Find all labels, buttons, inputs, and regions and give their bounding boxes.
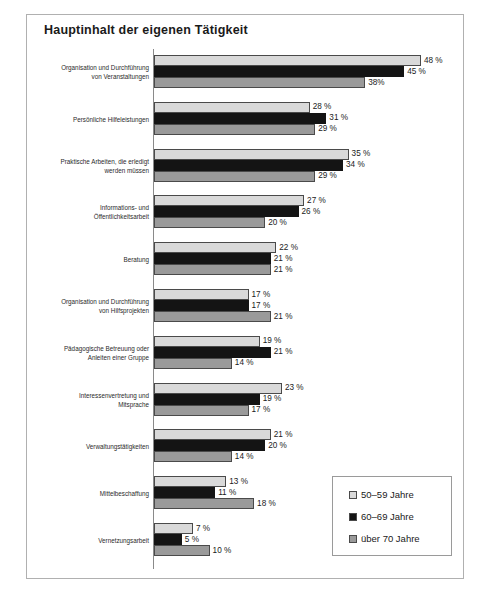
bar-value-label: 21 % xyxy=(271,347,293,356)
bar-value-label: 17 % xyxy=(249,301,271,310)
bar-group: Organisation und Durchführungvon Hilfspr… xyxy=(27,283,465,329)
bar-row: 31 % xyxy=(154,113,465,124)
bar[interactable] xyxy=(154,149,349,160)
bar[interactable] xyxy=(154,487,215,498)
bar-row: 21 % xyxy=(154,311,465,322)
bar[interactable] xyxy=(154,311,271,322)
bar-stack: 19 %21 %14 % xyxy=(154,336,465,370)
bar[interactable] xyxy=(154,405,249,416)
bar-row: 19 % xyxy=(154,336,465,347)
bar[interactable] xyxy=(154,77,365,88)
bar[interactable] xyxy=(154,289,249,300)
bar[interactable] xyxy=(154,498,254,509)
bar[interactable] xyxy=(154,347,271,358)
bar-row: 14 % xyxy=(154,451,465,462)
bar[interactable] xyxy=(154,476,226,487)
bar-value-label: 20 % xyxy=(265,218,287,227)
bar[interactable] xyxy=(154,264,271,275)
bar[interactable] xyxy=(154,394,260,405)
bar-group: Praktische Arbeiten, die erledigtwerden … xyxy=(27,143,465,189)
bar-stack: 17 %17 %21 % xyxy=(154,289,465,323)
bar-value-label: 17 % xyxy=(249,405,271,414)
bar-value-label: 14 % xyxy=(232,358,254,367)
bar-value-label: 11 % xyxy=(215,488,236,497)
bar[interactable] xyxy=(154,124,315,135)
bar-row: 19 % xyxy=(154,394,465,405)
bar-row: 14 % xyxy=(154,358,465,369)
bar-row: 17 % xyxy=(154,405,465,416)
category-label: Beratung xyxy=(33,255,149,264)
bar-value-label: 35 % xyxy=(349,149,371,158)
legend-swatch-50-59 xyxy=(349,491,357,499)
bar[interactable] xyxy=(154,545,210,556)
bar-value-label: 14 % xyxy=(232,452,254,461)
bar[interactable] xyxy=(154,358,232,369)
bar-group: Beratung22 %21 %21 % xyxy=(27,236,465,282)
bar[interactable] xyxy=(154,534,182,545)
category-label: Persönliche Hilfeleistungen xyxy=(33,114,149,123)
bar[interactable] xyxy=(154,451,232,462)
bar-stack: 35 %34 %29 % xyxy=(154,149,465,183)
chart-frame: Hauptinhalt der eigenen Tätigkeit Organi… xyxy=(26,14,464,579)
bar[interactable] xyxy=(154,429,271,440)
bar-row: 29 % xyxy=(154,171,465,182)
bar-row: 23 % xyxy=(154,383,465,394)
bar[interactable] xyxy=(154,336,260,347)
bar-group: Pädagogische Betreuung oderAnleiten eine… xyxy=(27,330,465,376)
category-label: Organisation und Durchführungvon Veranst… xyxy=(33,63,149,81)
category-label: Informations- undÖffentlichkeitsarbeit xyxy=(33,203,149,221)
bar[interactable] xyxy=(154,383,282,394)
bar-stack: 22 %21 %21 % xyxy=(154,242,465,276)
bar-group: Organisation und Durchführungvon Veranst… xyxy=(27,49,465,95)
bar[interactable] xyxy=(154,171,315,182)
bar-value-label: 20 % xyxy=(265,441,287,450)
bar[interactable] xyxy=(154,206,299,217)
bar-group: Informations- undÖffentlichkeitsarbeit27… xyxy=(27,189,465,235)
legend-item-1: 60–69 Jahre xyxy=(349,511,414,522)
bar[interactable] xyxy=(154,102,310,113)
legend-label-50-59: 50–59 Jahre xyxy=(361,489,414,500)
bar-row: 21 % xyxy=(154,347,465,358)
bar-value-label: 27 % xyxy=(304,196,326,205)
bar-value-label: 10 % xyxy=(210,546,232,555)
bar-value-label: 23 % xyxy=(282,383,304,392)
bar[interactable] xyxy=(154,160,343,171)
bar[interactable] xyxy=(154,440,265,451)
bar-stack: 21 %20 %14 % xyxy=(154,429,465,463)
category-label: Mittelbeschaffung xyxy=(33,489,149,498)
bar-row: 22 % xyxy=(154,242,465,253)
bar[interactable] xyxy=(154,300,249,311)
bar-row: 35 % xyxy=(154,149,465,160)
bar-value-label: 45 % xyxy=(404,67,426,76)
bar-value-label: 34 % xyxy=(343,160,365,169)
bar-row: 21 % xyxy=(154,264,465,275)
bar-value-label: 19 % xyxy=(260,394,282,403)
bar[interactable] xyxy=(154,242,276,253)
bar-value-label: 21 % xyxy=(271,312,293,321)
bar-row: 17 % xyxy=(154,289,465,300)
bar[interactable] xyxy=(154,66,404,77)
bar-row: 27 % xyxy=(154,195,465,206)
bar[interactable] xyxy=(154,253,271,264)
bar-row: 20 % xyxy=(154,217,465,228)
bar[interactable] xyxy=(154,217,265,228)
bar-group: Interessenvertretung undMitsprache23 %19… xyxy=(27,377,465,423)
bar-value-label: 26 % xyxy=(299,207,321,216)
bar-stack: 28 %31 %29 % xyxy=(154,102,465,136)
bar-row: 45 % xyxy=(154,66,465,77)
bar-value-label: 21 % xyxy=(271,254,293,263)
bar-value-label: 7 % xyxy=(193,524,210,533)
bar[interactable] xyxy=(154,55,421,66)
bar-group: Verwaltungstätigkeiten21 %20 %14 % xyxy=(27,423,465,469)
bar-value-label: 28 % xyxy=(310,102,332,111)
bar-row: 48 % xyxy=(154,55,465,66)
legend-swatch-over-70 xyxy=(349,535,357,543)
bar[interactable] xyxy=(154,523,193,534)
chart-title: Hauptinhalt der eigenen Tätigkeit xyxy=(44,23,248,37)
bar[interactable] xyxy=(154,195,304,206)
bar-value-label: 29 % xyxy=(315,124,337,133)
bar-stack: 23 %19 %17 % xyxy=(154,383,465,417)
bar-value-label: 19 % xyxy=(260,336,282,345)
bar-value-label: 13 % xyxy=(226,477,248,486)
bar[interactable] xyxy=(154,113,326,124)
